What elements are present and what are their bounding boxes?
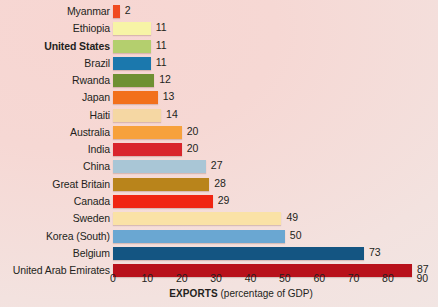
bar bbox=[113, 178, 209, 191]
bar-row: China27 bbox=[0, 158, 438, 175]
x-tick-label: 10 bbox=[142, 272, 154, 285]
bar-row: Sweden49 bbox=[0, 210, 438, 227]
bar-fill bbox=[113, 91, 158, 104]
category-label: Belgium bbox=[0, 245, 110, 262]
bar-row: United States11 bbox=[0, 38, 438, 55]
bar-value-label: 28 bbox=[214, 175, 226, 192]
bar-fill bbox=[113, 143, 182, 156]
bar-fill bbox=[113, 5, 120, 18]
x-tick-label: 90 bbox=[416, 272, 428, 285]
bar-fill bbox=[113, 126, 182, 139]
x-axis-title-strong: EXPORTS bbox=[169, 288, 218, 299]
bar bbox=[113, 160, 206, 173]
x-tick-label: 70 bbox=[348, 272, 360, 285]
bar-value-label: 14 bbox=[166, 106, 178, 123]
category-label: China bbox=[0, 158, 110, 175]
x-tick-label: 40 bbox=[245, 272, 257, 285]
bar-value-label: 20 bbox=[187, 140, 199, 157]
category-label: Korea (South) bbox=[0, 228, 110, 245]
category-label: Brazil bbox=[0, 55, 110, 72]
bar bbox=[113, 126, 182, 139]
bar-fill bbox=[113, 57, 151, 70]
bar bbox=[113, 40, 151, 53]
x-tick-label: 50 bbox=[279, 272, 291, 285]
bar-fill bbox=[113, 212, 281, 225]
bar bbox=[113, 57, 151, 70]
category-label: Sweden bbox=[0, 210, 110, 227]
bar-fill bbox=[113, 178, 209, 191]
x-tick-label: 80 bbox=[382, 272, 394, 285]
bar-value-label: 49 bbox=[286, 209, 298, 226]
bar bbox=[113, 91, 158, 104]
bar-value-label: 2 bbox=[125, 2, 131, 19]
x-tick-label: 0 bbox=[110, 272, 116, 285]
bar-value-label: 73 bbox=[369, 244, 381, 261]
bar bbox=[113, 5, 120, 18]
bar-fill bbox=[113, 160, 206, 173]
bar-fill bbox=[113, 247, 364, 260]
bar-row: Great Britain28 bbox=[0, 176, 438, 193]
category-label: Canada bbox=[0, 193, 110, 210]
exports-bar-chart: Myanmar2Ethiopia11United States11Brazil1… bbox=[0, 0, 438, 307]
bar-row: Japan13 bbox=[0, 89, 438, 106]
bar-value-label: 20 bbox=[187, 123, 199, 140]
bar bbox=[113, 195, 213, 208]
bar-row: Belgium73 bbox=[0, 245, 438, 262]
bar-fill bbox=[113, 40, 151, 53]
bar-fill bbox=[113, 109, 161, 122]
bar-fill bbox=[113, 195, 213, 208]
bar-row: Canada29 bbox=[0, 193, 438, 210]
x-axis-title-weak: (percentage of GDP) bbox=[218, 288, 313, 299]
category-label: Ethiopia bbox=[0, 20, 110, 37]
bar-value-label: 13 bbox=[163, 88, 175, 105]
x-axis-title: EXPORTS (percentage of GDP) bbox=[0, 288, 438, 299]
bar-row: Korea (South)50 bbox=[0, 228, 438, 245]
x-tick-label: 30 bbox=[210, 272, 222, 285]
bar-fill bbox=[113, 230, 285, 243]
bar bbox=[113, 143, 182, 156]
bar-value-label: 11 bbox=[156, 54, 167, 71]
category-label: Haiti bbox=[0, 107, 110, 124]
bar-fill bbox=[113, 22, 151, 35]
bar-value-label: 11 bbox=[156, 37, 167, 54]
bar-row: Ethiopia11 bbox=[0, 20, 438, 37]
category-label: Australia bbox=[0, 124, 110, 141]
category-label: India bbox=[0, 141, 110, 158]
bar bbox=[113, 74, 154, 87]
category-label: Myanmar bbox=[0, 3, 110, 20]
category-label: Great Britain bbox=[0, 176, 110, 193]
category-label: Rwanda bbox=[0, 72, 110, 89]
bar bbox=[113, 109, 161, 122]
x-tick-label: 60 bbox=[313, 272, 325, 285]
bar-value-label: 29 bbox=[218, 192, 230, 209]
x-tick-label: 20 bbox=[176, 272, 188, 285]
bar bbox=[113, 247, 364, 260]
bar-row: Australia20 bbox=[0, 124, 438, 141]
bar-value-label: 50 bbox=[290, 227, 302, 244]
bar-value-label: 12 bbox=[159, 71, 171, 88]
x-axis: 0102030405060708090 bbox=[0, 272, 438, 286]
category-label: Japan bbox=[0, 89, 110, 106]
bar-row: Brazil11 bbox=[0, 55, 438, 72]
bar-row: Rwanda12 bbox=[0, 72, 438, 89]
bar-row: Myanmar2 bbox=[0, 3, 438, 20]
bar-value-label: 27 bbox=[211, 157, 223, 174]
category-label: United States bbox=[0, 38, 110, 55]
bar bbox=[113, 230, 285, 243]
bar-row: India20 bbox=[0, 141, 438, 158]
bar-row: Haiti14 bbox=[0, 107, 438, 124]
bar-fill bbox=[113, 74, 154, 87]
bar-value-label: 11 bbox=[156, 19, 167, 36]
bar bbox=[113, 212, 281, 225]
bar bbox=[113, 22, 151, 35]
